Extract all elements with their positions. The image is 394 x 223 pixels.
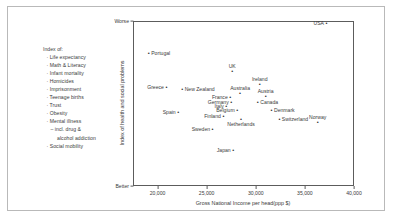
data-point-label: Canada bbox=[260, 100, 278, 106]
x-tick-mark bbox=[255, 186, 256, 189]
y-tick-label: Better bbox=[115, 183, 129, 189]
legend-item: · Imprisonment bbox=[43, 85, 115, 93]
data-point-marker: • bbox=[148, 51, 150, 57]
data-point-marker: • bbox=[326, 22, 328, 28]
data-point-label: Japan bbox=[217, 148, 231, 154]
data-point-label: UK bbox=[229, 64, 236, 70]
data-point-marker: • bbox=[259, 82, 261, 88]
x-tick-mark bbox=[304, 186, 305, 189]
legend-item: – incl. drug & bbox=[43, 125, 115, 133]
legend-item: · Math & Literacy bbox=[43, 61, 115, 69]
legend-item: · Mental illness bbox=[43, 117, 115, 125]
data-point-label: Denmark bbox=[274, 108, 295, 114]
legend-title: Index of: bbox=[43, 45, 115, 53]
x-tick-label: 35,000 bbox=[297, 190, 313, 196]
x-tick-mark bbox=[157, 186, 158, 189]
data-point-label: Spain bbox=[163, 110, 176, 116]
legend-item: · Social mobility bbox=[43, 142, 115, 150]
data-point-marker: • bbox=[212, 127, 214, 133]
data-point-marker: • bbox=[177, 110, 179, 116]
plot-area: •USA•Portugal•UK•Greece•New Zealand•Irel… bbox=[133, 21, 354, 186]
index-legend: Index of: · Life expectancy· Math & Lite… bbox=[43, 45, 115, 150]
data-point-marker: • bbox=[222, 114, 224, 120]
data-point-marker: • bbox=[317, 121, 319, 127]
data-point-label: Switzerland bbox=[282, 117, 308, 123]
x-tick-label: 25,000 bbox=[199, 190, 215, 196]
data-point-marker: • bbox=[165, 86, 167, 92]
data-point-label: Australia bbox=[230, 86, 250, 92]
data-point-marker: • bbox=[231, 69, 233, 75]
y-tick-mark bbox=[131, 186, 134, 187]
data-point-label: Norway bbox=[309, 116, 326, 122]
legend-item: · Obesity bbox=[43, 109, 115, 117]
data-point-label: Ireland bbox=[252, 77, 268, 83]
data-point-marker: • bbox=[230, 100, 232, 106]
data-point-label: Finland bbox=[204, 114, 221, 120]
data-point-label: Austria bbox=[258, 89, 274, 95]
x-tick-mark bbox=[206, 186, 207, 189]
x-axis-title: Gross National Income per head(ppp $) bbox=[196, 200, 291, 206]
data-point-label: USA bbox=[314, 22, 324, 28]
legend-item: · Teenage births bbox=[43, 93, 115, 101]
legend-item: alcohol addiction bbox=[43, 134, 115, 142]
data-point-marker: • bbox=[278, 117, 280, 123]
data-point-marker: • bbox=[181, 88, 183, 94]
chart-page: Index of: · Life expectancy· Math & Lite… bbox=[0, 0, 394, 223]
data-point-label: Netherlands bbox=[227, 122, 254, 128]
data-point-marker: • bbox=[271, 108, 273, 114]
legend-item: · Trust bbox=[43, 101, 115, 109]
x-tick-label: 30,000 bbox=[248, 190, 264, 196]
y-axis-title: Index of health and social problems bbox=[119, 61, 125, 146]
x-tick-label: 40,000 bbox=[346, 190, 362, 196]
data-point-marker: • bbox=[257, 100, 259, 106]
x-tick-mark bbox=[354, 186, 355, 189]
x-tick-label: 20,000 bbox=[150, 190, 166, 196]
legend-item: · Life expectancy bbox=[43, 53, 115, 61]
data-point-label: New Zealand bbox=[185, 88, 215, 94]
data-point-marker: • bbox=[236, 108, 238, 114]
y-tick-label: Worse bbox=[114, 18, 129, 24]
data-point-label: Portugal bbox=[151, 51, 170, 57]
y-tick-mark bbox=[131, 21, 134, 22]
data-point-marker: • bbox=[232, 148, 234, 154]
data-point-label: Sweden bbox=[192, 127, 210, 133]
data-point-marker: • bbox=[239, 91, 241, 97]
legend-item: · Infant mortality bbox=[43, 69, 115, 77]
data-point-label: Greece bbox=[147, 86, 164, 92]
legend-item: · Homicides bbox=[43, 77, 115, 85]
